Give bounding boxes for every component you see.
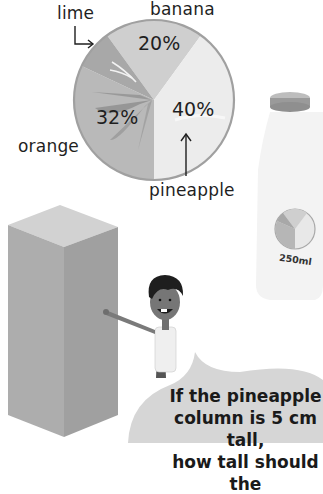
value-pineapple: 40%	[172, 98, 214, 120]
speech-bubble-text: If the pineapple column is 5 cm tall, ho…	[168, 385, 323, 494]
value-orange: 32%	[96, 106, 138, 128]
speech-line-1: If the pineapple	[168, 385, 323, 407]
bottle-mini-pie-icon	[275, 209, 315, 249]
label-orange: orange	[18, 136, 79, 156]
label-pineapple: pineapple	[149, 180, 235, 200]
speech-line-3: how tall should the	[168, 451, 323, 494]
label-banana: banana	[150, 0, 215, 19]
speech-line-2: column is 5 cm tall,	[168, 407, 323, 451]
value-banana: 20%	[138, 32, 180, 54]
lime-arrow-icon	[75, 26, 93, 48]
label-lime: lime	[57, 3, 94, 23]
juice-bottle-illustration	[256, 92, 323, 300]
isometric-column	[8, 205, 118, 437]
